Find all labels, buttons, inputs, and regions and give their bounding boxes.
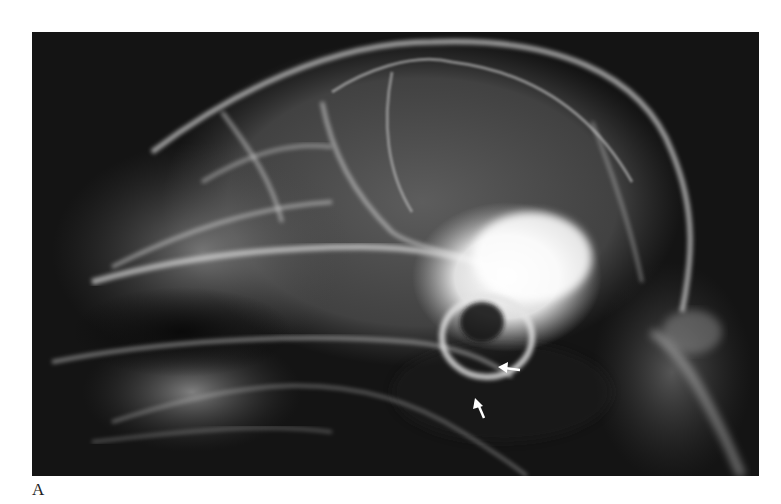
panel-label: A [32, 481, 44, 498]
skull-radiograph [32, 32, 759, 476]
figure: A [0, 0, 781, 504]
xray-image [32, 32, 759, 476]
